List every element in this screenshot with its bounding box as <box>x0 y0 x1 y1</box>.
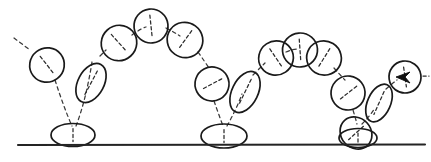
ball-01-entry <box>23 41 72 89</box>
ground-line <box>18 145 425 146</box>
ball-03-stretch-up-1 <box>70 58 113 107</box>
ball-07-fall-2-axis <box>202 79 221 89</box>
ball-03-stretch-up-1-axis <box>85 71 98 95</box>
ball-14-contact-squash-3-outline <box>333 110 378 155</box>
direction-arrow-group <box>396 72 429 83</box>
ball-05-apex-1 <box>132 7 169 44</box>
ball-10-rise-2-axis <box>270 49 282 67</box>
ball-05-apex-1-axis <box>150 15 152 37</box>
ball-11-apex-2 <box>281 32 318 68</box>
ground-plane <box>18 145 425 146</box>
ball-10-rise-2 <box>252 34 300 82</box>
motion-arc-trails <box>14 27 397 126</box>
ball-09-stretch-up-2-axis <box>239 79 251 104</box>
bouncing-ball-diagram: Hand drawn animation timing chart: a bal… <box>0 0 431 162</box>
ball-07-fall-2 <box>189 61 235 107</box>
ball-06-fall-1-axis <box>178 31 192 50</box>
ball-09-stretch-up-2 <box>224 67 267 118</box>
ball-01-entry-axis <box>40 56 54 73</box>
ball-16-stretch-up-3-axis <box>374 92 384 115</box>
arc-contact-1-to-apex <box>76 27 146 126</box>
ball-13-fall-3 <box>324 69 372 117</box>
ball-14-contact-squash-3 <box>333 110 378 155</box>
ball-04-rise-1-axis <box>111 34 126 51</box>
direction-arrow-icon <box>396 72 410 83</box>
ball-positions-layer <box>23 7 423 155</box>
ball-04-rise-1 <box>94 18 144 68</box>
ball-11-apex-2-axis <box>299 39 301 61</box>
arc-apex-1-to-contact-2 <box>166 28 223 126</box>
ball-02-contact-squash-1 <box>51 124 95 147</box>
ball-12-apex-2b-axis <box>318 49 330 68</box>
ball-13-fall-3-axis <box>339 86 356 100</box>
animation-scene <box>0 0 431 162</box>
